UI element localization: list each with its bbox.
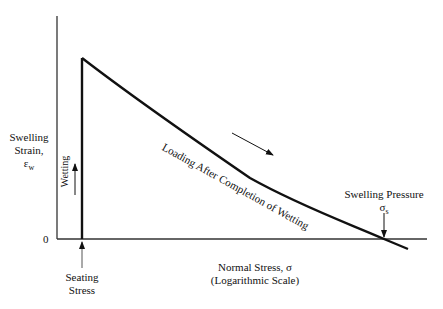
x-label-line2: (Logarithmic Scale) (195, 274, 315, 287)
swelling-pressure-label: Swelling Pressure σs (338, 188, 430, 218)
x-axis-label: Normal Stress, σ (Logarithmic Scale) (195, 261, 315, 287)
wetting-label: Wetting (58, 152, 71, 192)
y-label-line2: Strain, (4, 144, 54, 157)
y-axis-label: Swelling Strain, εw (4, 131, 54, 174)
seating-line2: Stress (58, 284, 106, 297)
swelling-pressure-symbol: σs (338, 201, 430, 218)
loading-direction-arrow-icon (232, 133, 273, 155)
y-label-symbol: εw (4, 157, 54, 174)
y-label-line1: Swelling (4, 131, 54, 144)
seating-line1: Seating (58, 271, 106, 284)
seating-stress-label: Seating Stress (58, 271, 106, 297)
x-label-line1: Normal Stress, σ (195, 261, 315, 274)
y-zero-label: 0 (43, 233, 49, 246)
swelling-pressure-text: Swelling Pressure (338, 188, 430, 201)
loading-curve (82, 58, 408, 249)
